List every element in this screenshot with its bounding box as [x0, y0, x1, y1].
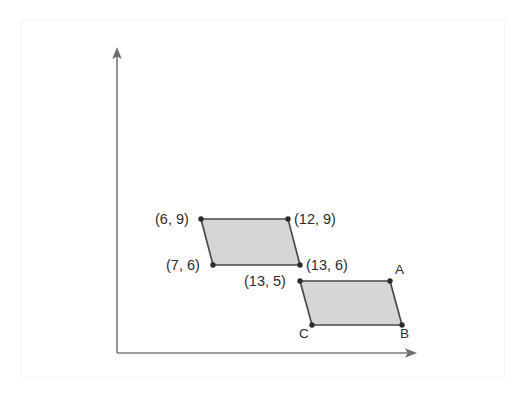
vertex-dot-13-5 — [297, 278, 302, 283]
x-axis — [117, 348, 417, 358]
label-a: A — [395, 262, 404, 277]
geometry-diagram — [0, 0, 528, 395]
vertex-dot-6-9 — [198, 216, 203, 221]
parallelogram-2-outline — [300, 281, 402, 325]
vertex-dot-13-6 — [297, 262, 302, 267]
y-axis — [112, 47, 122, 353]
label-6-9: (6, 9) — [155, 211, 189, 227]
parallelogram-1 — [198, 216, 302, 267]
vertex-dot-a — [387, 278, 392, 283]
parallelogram-1-outline — [201, 219, 300, 265]
label-7-6: (7, 6) — [166, 257, 200, 273]
label-13-6: (13, 6) — [306, 257, 348, 273]
figure-root: (6, 9) (12, 9) (7, 6) (13, 6) (13, 5) A … — [0, 0, 528, 395]
vertex-dot-c — [309, 322, 314, 327]
label-c: C — [299, 326, 309, 341]
label-13-5: (13, 5) — [244, 273, 286, 289]
parallelogram-2 — [297, 278, 404, 327]
vertex-dot-12-9 — [285, 216, 290, 221]
label-b: B — [400, 326, 409, 341]
label-12-9: (12, 9) — [294, 211, 336, 227]
vertex-dot-7-6 — [210, 262, 215, 267]
